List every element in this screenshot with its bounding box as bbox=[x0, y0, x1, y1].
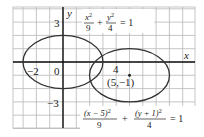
y-axis-label: y bbox=[66, 7, 72, 19]
eq2-den1: 9 bbox=[97, 120, 102, 130]
eq1-equals: = 1 bbox=[120, 17, 133, 28]
tick-y-3: 3 bbox=[54, 17, 60, 29]
eq2-num1: (x − 5)2 bbox=[84, 108, 111, 118]
tick-x-4: 4 bbox=[113, 63, 119, 75]
eq2-equals: = 1 bbox=[170, 113, 183, 124]
eq1-den2: 4 bbox=[108, 23, 113, 33]
center-label: (5,−1) bbox=[107, 76, 135, 89]
tick-origin: 0 bbox=[54, 65, 60, 77]
equation-1: x2 9 + y2 4 = 1 bbox=[82, 9, 154, 33]
coordinate-plane: y x 3 −3 −2 0 4 (5,−1) x2 9 + y2 4 = 1 (… bbox=[0, 0, 204, 137]
eq2-den2: 4 bbox=[147, 120, 152, 130]
tick-x-neg2: −2 bbox=[27, 65, 39, 77]
eq2-plus: + bbox=[122, 113, 128, 124]
eq1-plus: + bbox=[97, 17, 103, 28]
tick-y-neg3: −3 bbox=[47, 97, 59, 109]
eq2-num2: (y + 1)2 bbox=[135, 108, 162, 118]
x-axis-label: x bbox=[183, 49, 189, 61]
equation-2: (x − 5)2 9 + (y + 1)2 4 = 1 bbox=[80, 106, 196, 130]
eq1-den1: 9 bbox=[86, 23, 91, 33]
